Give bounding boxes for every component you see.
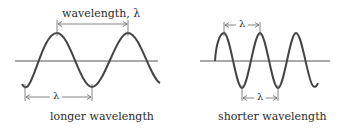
right-caption: shorter wavelength	[218, 110, 327, 123]
left-caption: longer wavelength	[50, 110, 154, 123]
left-long-wave	[22, 33, 160, 87]
left-bottom-label: λ	[53, 90, 59, 101]
left-top-label: wavelength, λ	[62, 7, 140, 20]
right-top-label: λ	[239, 18, 245, 29]
right-bottom-label: λ	[257, 91, 263, 102]
